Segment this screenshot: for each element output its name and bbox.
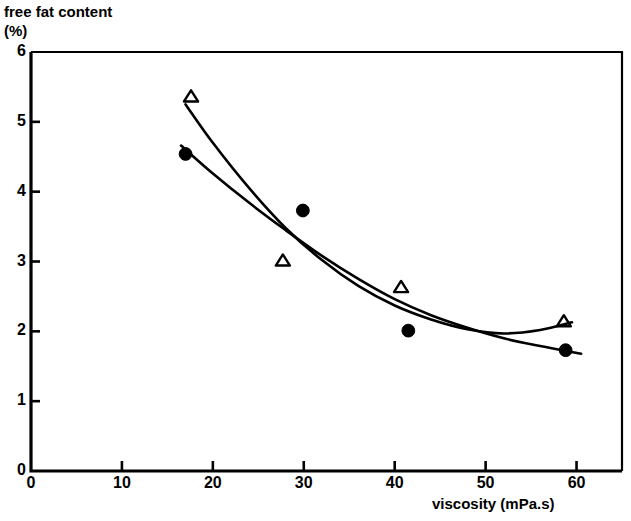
- axes-frame: [31, 52, 622, 471]
- marker-circle-1-3: [559, 344, 572, 357]
- marker-circle-1-1: [296, 204, 309, 217]
- marker-triangle-0-1: [276, 254, 290, 265]
- fit-curves: [181, 104, 581, 353]
- marker-circle-1-0: [179, 148, 192, 161]
- marker-circle-1-2: [402, 324, 415, 337]
- chart-figure: free fat content (%) viscosity (mPa.s) 0…: [0, 0, 631, 521]
- fit-curve-open-triangle-series: [186, 104, 572, 333]
- axis-tick-marks: [31, 122, 577, 471]
- marker-triangle-0-0: [184, 90, 198, 101]
- plot-area: [0, 0, 631, 521]
- axis-line-top-right: [31, 52, 622, 471]
- data-markers: [179, 90, 572, 356]
- axis-line-left-bottom: [31, 52, 622, 471]
- marker-triangle-0-2: [394, 281, 408, 292]
